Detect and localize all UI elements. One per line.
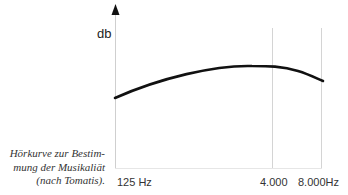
y-axis-arrow-icon <box>112 4 120 15</box>
x-tick-4000: 4.000 <box>260 176 288 188</box>
caption-line-2: mung der Musikaliät <box>0 161 105 175</box>
caption-line-3: (nach Tomatis). <box>0 174 105 188</box>
hearing-curve <box>115 66 323 98</box>
figure-caption: Hörkurve zur Bestim- mung der Musikaliät… <box>0 147 105 188</box>
y-axis-label: db <box>97 26 111 41</box>
x-tick-8000: 8.000Hz <box>298 176 339 188</box>
x-tick-125: 125 Hz <box>117 176 152 188</box>
caption-line-1: Hörkurve zur Bestim- <box>0 147 105 161</box>
